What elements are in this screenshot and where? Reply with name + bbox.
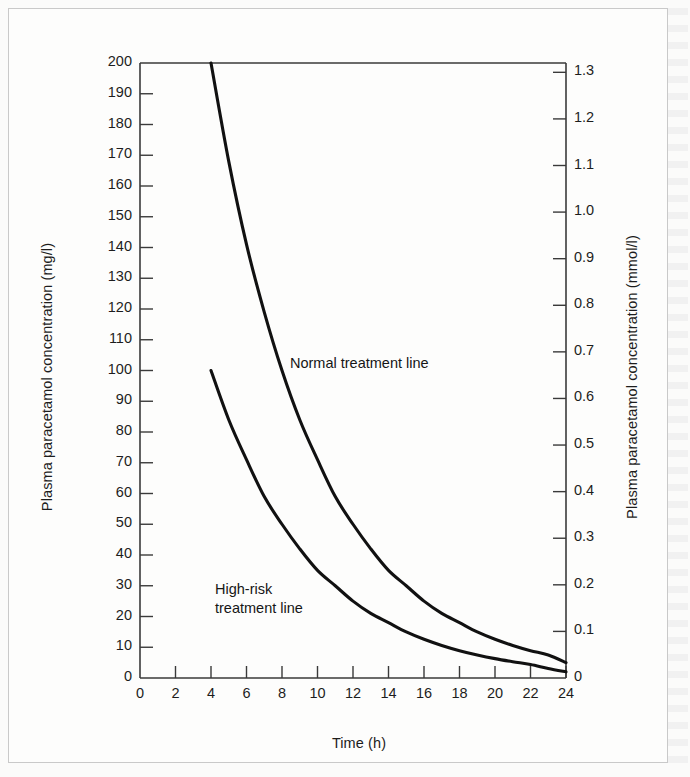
y-tick-label-right-0.7: 0.7 <box>574 342 624 358</box>
y-tick-label-left-150: 150 <box>82 207 132 223</box>
x-axis-ticks <box>176 666 567 678</box>
x-tick-label-2: 2 <box>156 685 196 701</box>
y-tick-label-left-0: 0 <box>82 668 132 684</box>
x-tick-label-8: 8 <box>262 685 302 701</box>
y-tick-label-right-1.0: 1.0 <box>574 202 624 218</box>
y-tick-label-left-160: 160 <box>82 176 132 192</box>
y-tick-label-left-110: 110 <box>82 330 132 346</box>
y-tick-label-left-170: 170 <box>82 145 132 161</box>
x-tick-label-24: 24 <box>546 685 586 701</box>
x-tick-label-18: 18 <box>440 685 480 701</box>
y-tick-label-right-1.2: 1.2 <box>574 109 624 125</box>
y-tick-label-right-0: 0 <box>574 668 624 684</box>
y-tick-label-right-0.4: 0.4 <box>574 482 624 498</box>
y-tick-label-right-0.5: 0.5 <box>574 435 624 451</box>
y-tick-label-right-0.2: 0.2 <box>574 575 624 591</box>
y-axis-left-ticks <box>140 94 153 648</box>
y-tick-label-right-0.6: 0.6 <box>574 388 624 404</box>
x-tick-label-14: 14 <box>369 685 409 701</box>
y-tick-label-left-200: 200 <box>82 53 132 69</box>
x-tick-label-20: 20 <box>475 685 515 701</box>
y-tick-label-left-10: 10 <box>82 637 132 653</box>
x-tick-label-16: 16 <box>404 685 444 701</box>
y-axis-right-title: Plasma paracetamol concentration (mmol/l… <box>624 227 640 527</box>
y-tick-label-right-0.3: 0.3 <box>574 528 624 544</box>
chart-figure: Plasma paracetamol concentration (mg/l) … <box>8 8 668 763</box>
x-tick-label-22: 22 <box>511 685 551 701</box>
y-tick-label-right-0.1: 0.1 <box>574 621 624 637</box>
y-tick-label-left-190: 190 <box>82 84 132 100</box>
y-tick-label-left-70: 70 <box>82 453 132 469</box>
y-axis-right-ticks <box>553 72 566 631</box>
y-tick-label-left-100: 100 <box>82 361 132 377</box>
annotation-normal-treatment-line: Normal treatment line <box>290 354 429 373</box>
y-tick-label-right-1.3: 1.3 <box>574 62 624 78</box>
figure-page: Plasma paracetamol concentration (mg/l) … <box>0 0 690 777</box>
y-tick-label-left-130: 130 <box>82 268 132 284</box>
x-tick-label-0: 0 <box>120 685 160 701</box>
x-axis-title: Time (h) <box>249 735 469 751</box>
x-tick-label-4: 4 <box>191 685 231 701</box>
x-tick-label-10: 10 <box>298 685 338 701</box>
y-tick-label-right-0.8: 0.8 <box>574 295 624 311</box>
y-tick-label-left-120: 120 <box>82 299 132 315</box>
annotation-high-risk-treatment-line: High-risk treatment line <box>215 580 303 618</box>
y-tick-label-left-30: 30 <box>82 576 132 592</box>
y-tick-label-left-60: 60 <box>82 484 132 500</box>
y-tick-label-left-140: 140 <box>82 238 132 254</box>
y-tick-label-left-20: 20 <box>82 607 132 623</box>
y-tick-label-left-80: 80 <box>82 422 132 438</box>
x-tick-label-6: 6 <box>227 685 267 701</box>
y-axis-left-title: Plasma paracetamol concentration (mg/l) <box>39 227 55 527</box>
y-tick-label-left-50: 50 <box>82 514 132 530</box>
y-tick-label-left-90: 90 <box>82 391 132 407</box>
x-tick-label-12: 12 <box>333 685 373 701</box>
y-tick-label-left-180: 180 <box>82 115 132 131</box>
y-tick-label-right-0.9: 0.9 <box>574 249 624 265</box>
curve-high-risk-treatment-line <box>211 371 566 672</box>
y-tick-label-right-1.1: 1.1 <box>574 156 624 172</box>
y-tick-label-left-40: 40 <box>82 545 132 561</box>
